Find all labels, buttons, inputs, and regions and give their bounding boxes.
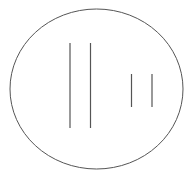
- diagram-canvas: [0, 0, 192, 178]
- background: [0, 0, 192, 178]
